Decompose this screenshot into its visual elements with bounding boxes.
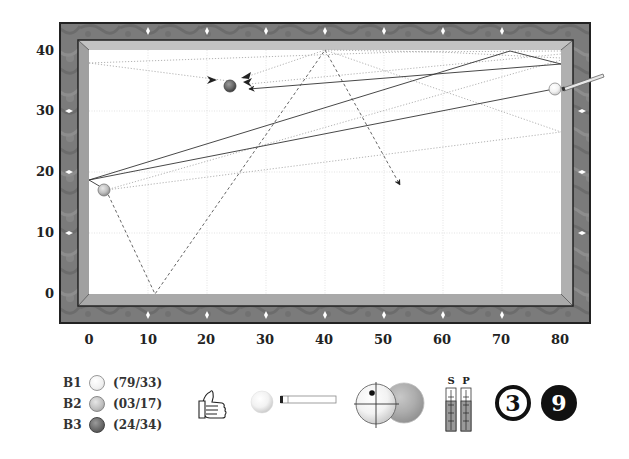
cushion-right <box>561 41 572 305</box>
cue-stick-icon <box>280 396 336 403</box>
power-gauge[interactable] <box>461 388 471 431</box>
ball-contact-icon[interactable] <box>354 382 424 428</box>
legend-row-b2: B2 (03/17) <box>63 395 162 413</box>
ball-b2[interactable] <box>98 184 110 196</box>
speed-gauge[interactable] <box>446 388 456 431</box>
ball-b3[interactable] <box>224 80 236 92</box>
cushion-bottom <box>79 294 572 305</box>
speed-gauge-label: S <box>445 375 457 386</box>
thumbs-up-icon[interactable] <box>199 391 226 418</box>
power-gauge-label: P <box>460 375 472 386</box>
legend-coords-b3: (24/34) <box>113 418 162 432</box>
legend-label-b1: B1 <box>63 376 89 390</box>
hit-point-marker[interactable] <box>369 390 375 396</box>
cue-ball-icon <box>251 391 273 413</box>
legend-row-b3: B3 (24/34) <box>63 416 162 434</box>
legend-ball-b2-icon <box>89 396 105 412</box>
legend-coords-b2: (03/17) <box>113 397 162 411</box>
ball-number-9[interactable]: 9 <box>541 385 577 421</box>
legend-coords-b1: (79/33) <box>113 376 162 390</box>
legend-label-b3: B3 <box>63 418 89 432</box>
legend-ball-b3-icon <box>89 417 105 433</box>
cushion-left <box>79 41 89 305</box>
ball-number-3[interactable]: 3 <box>495 385 531 421</box>
legend-row-b1: B1 (79/33) <box>63 374 162 392</box>
ball-b1[interactable] <box>549 83 561 95</box>
legend-label-b2: B2 <box>63 397 89 411</box>
cushion-top <box>79 41 572 50</box>
legend-ball-b1-icon <box>89 375 105 391</box>
